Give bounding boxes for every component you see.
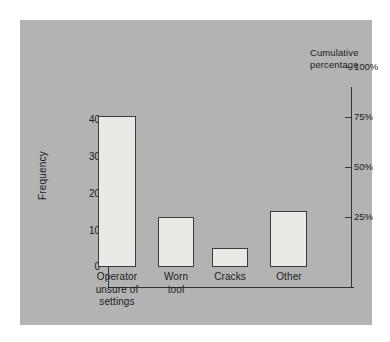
secondary-tick-label-75: 75% [354, 112, 373, 122]
x-category-label-line-3: settings [82, 296, 152, 309]
y-tick-label-20: 20 [76, 189, 100, 199]
y-tick-label-10: 10 [76, 226, 100, 236]
secondary-tick-label-50: 50% [354, 162, 373, 172]
x-category-label-cracks: Cracks [200, 271, 260, 284]
secondary-axis-title-line-1: Cumulative [310, 47, 390, 59]
y-tick-label-40: 40 [76, 115, 100, 125]
secondary-tick-50 [345, 167, 352, 168]
secondary-tick-75 [345, 117, 352, 118]
x-category-label-worn-tool: Worn tool [146, 271, 206, 296]
bar-operator-unsure-of-settings[interactable] [98, 116, 136, 267]
secondary-tick-label-100: 100% [354, 62, 378, 72]
x-category-label-line-2: unsure of [82, 284, 152, 297]
y-axis-title: Frequency [37, 131, 48, 221]
bar-other[interactable] [270, 211, 307, 267]
chart-figure: Cumulative percentage 100% 75% 50% 25% 4… [0, 0, 390, 342]
x-category-label-line-2: tool [146, 284, 206, 297]
chart-panel: Cumulative percentage 100% 75% 50% 25% 4… [20, 20, 372, 325]
bar-worn-tool[interactable] [158, 217, 194, 267]
x-category-label-other: Other [259, 271, 319, 284]
secondary-tick-25 [345, 217, 352, 218]
x-category-label-line-1: Other [259, 271, 319, 284]
x-category-label-line-1: Cracks [200, 271, 260, 284]
bar-cracks[interactable] [212, 248, 248, 267]
x-category-label-line-1: Worn [146, 271, 206, 284]
x-category-label-line-1: Operator [82, 271, 152, 284]
x-category-label-operator-unsure-of-settings: Operator unsure of settings [82, 271, 152, 309]
secondary-tick-label-25: 25% [354, 212, 373, 222]
secondary-tick-100 [345, 67, 352, 68]
y-tick-label-30: 30 [76, 152, 100, 162]
